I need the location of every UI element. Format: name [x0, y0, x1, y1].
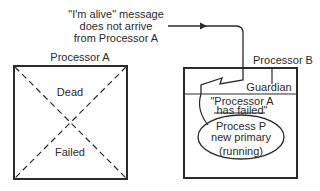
processor-a-state-dead: Dead — [50, 86, 90, 98]
guardian-label: Guardian — [242, 81, 296, 93]
processor-b-title: Processor B — [246, 54, 320, 66]
process-p-line3: (running) — [201, 145, 281, 157]
message-label-line2: does not arrive — [64, 20, 168, 32]
arrow-head-icon — [200, 23, 207, 30]
message-arrow-path — [168, 26, 243, 94]
process-p-line2: new primary — [201, 131, 281, 143]
processor-a-state-failed: Failed — [45, 146, 95, 158]
message-label-line3: from Processor A — [64, 32, 168, 44]
notice-line2: has failed" — [200, 104, 284, 116]
processor-a-title: Processor A — [40, 51, 120, 63]
message-label-line1: "I'm alive" message — [64, 8, 168, 20]
